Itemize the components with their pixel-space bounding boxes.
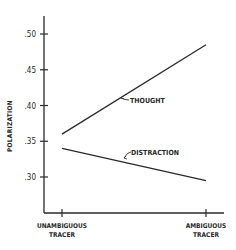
x-category-label: TRACER xyxy=(49,231,75,239)
y-tick-label: .30 xyxy=(25,173,37,182)
polarization-line-chart: .30.35.40.45.50 UNAMBIGUOUSTRACERAMBIGUO… xyxy=(0,0,236,250)
series-labels: THOUGHTDISTRACTION xyxy=(121,96,179,159)
y-tick-label: .35 xyxy=(25,137,36,146)
y-tick-label: .45 xyxy=(25,66,36,75)
series-lines xyxy=(62,45,206,181)
y-tick-label: .40 xyxy=(25,102,37,111)
x-category-label: TRACER xyxy=(193,231,219,239)
x-category-label: UNAMBIGUOUS xyxy=(37,222,87,230)
y-tick-label: .50 xyxy=(25,30,37,39)
series-label-distraction: DISTRACTION xyxy=(131,149,179,157)
x-category-label: AMBIGUOUS xyxy=(186,222,226,230)
chart-canvas: .30.35.40.45.50 UNAMBIGUOUSTRACERAMBIGUO… xyxy=(0,0,236,250)
series-line-thought xyxy=(62,45,206,134)
series-label-thought: THOUGHT xyxy=(130,97,165,105)
y-axis-title: POLARIZATION xyxy=(6,100,14,152)
